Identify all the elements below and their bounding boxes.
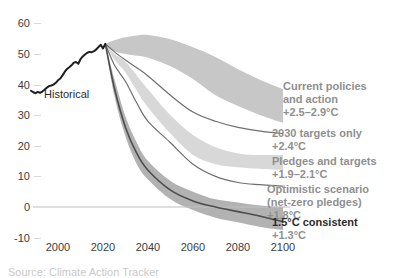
y-axis-label: 60 [0, 17, 30, 29]
y-tick-mark [34, 146, 41, 147]
y-tick-mark [34, 85, 41, 86]
scenario-temperature-label: +1.9–2.1°C [272, 168, 377, 181]
scenario-temperature-label: +1.3°C [272, 229, 358, 242]
scenario-temperature-label: +2.5–2.9°C [283, 106, 367, 119]
scenario-label-line: Optimistic scenario [267, 183, 369, 196]
x-axis-label: 2080 [218, 241, 258, 253]
x-axis-label: 2040 [128, 241, 168, 253]
y-tick-mark [34, 54, 41, 55]
y-axis-label: 20 [0, 140, 30, 152]
x-axis-label: 2000 [38, 241, 78, 253]
source-note-clipped: Source: Climate Action Tracker [8, 266, 159, 278]
y-axis-label: -10 [0, 232, 30, 244]
x-axis-label: 2020 [83, 241, 123, 253]
y-tick-mark [34, 238, 41, 239]
scenario-temperature-label: +2.4°C [272, 140, 362, 153]
scenario-label-line: and action [283, 93, 367, 106]
y-axis-label: 30 [0, 109, 30, 121]
scenario-label-pledges-and-targets: Pledges and targets+1.9–2.1°C [272, 155, 377, 181]
scenario-label-line: 1.5°C consistent [272, 216, 358, 229]
scenario-label-line: 2030 targets only [272, 127, 362, 140]
y-tick-mark [34, 176, 41, 177]
y-axis-label: 50 [0, 48, 30, 60]
scenario-label-one-point-five-consistent: 1.5°C consistent+1.3°C [272, 216, 358, 242]
scenario-label-line: (net-zero pledges) [267, 196, 369, 209]
historical-line [31, 44, 105, 93]
scenario-label-current-policies: Current policiesand action+2.5–2.9°C [283, 80, 367, 119]
x-axis-label: 2100 [263, 241, 303, 253]
y-axis-label: 10 [0, 170, 30, 182]
scenario-label-targets-2030: 2030 targets only+2.4°C [272, 127, 362, 153]
y-axis-label: 0 [0, 201, 30, 213]
scenario-label-line: Pledges and targets [272, 155, 377, 168]
x-axis-label: 2060 [173, 241, 213, 253]
y-axis-label: 40 [0, 79, 30, 91]
y-tick-mark [34, 23, 41, 24]
historical-label: Historical [44, 88, 89, 100]
scenario-label-line: Current policies [283, 80, 367, 93]
y-tick-mark [34, 115, 41, 116]
